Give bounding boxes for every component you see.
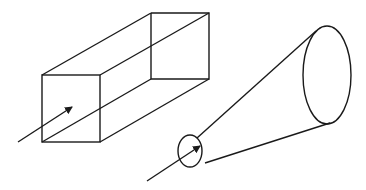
cone-outlet-ellipse: [303, 26, 351, 124]
prism-front-face: [42, 75, 100, 142]
prism-back-face: [151, 13, 209, 79]
cone-flow-arrow-icon: [147, 146, 200, 181]
truncated-cone: [178, 26, 351, 167]
flow-arrows: [18, 107, 200, 181]
box-flow-arrow-icon: [18, 107, 72, 142]
rectangular-prism: [42, 13, 209, 142]
flow-geometry-diagram: [0, 0, 366, 190]
cone-inlet-ellipse: [178, 135, 202, 167]
